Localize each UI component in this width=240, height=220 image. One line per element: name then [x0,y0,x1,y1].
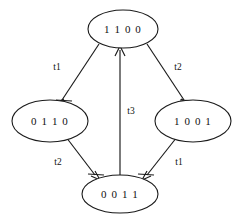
arrowhead-barb-bottom-from-right [138,174,154,175]
graph-canvas: t1 t2 t2 t1 t3 [0,0,240,220]
node-left-label: 0 1 1 0 [31,115,69,127]
arrowhead-barb-bottom-from-left [88,174,104,175]
edge-left-to-bottom: t2 [54,137,104,180]
node-left[interactable]: 0 1 1 0 [12,100,88,142]
node-top-label: 1 1 0 0 [104,23,142,35]
edge-line-top-to-left [62,44,99,100]
edge-top-to-left: t1 [53,44,99,108]
node-top[interactable]: 1 1 0 0 [88,10,158,48]
node-bottom[interactable]: 0 0 1 1 [82,175,158,213]
edge-label-left-to-bottom: t2 [54,157,62,167]
edge-line-right-to-bottom [147,137,177,175]
state-transition-diagram: t1 t2 t2 t1 t3 [0,0,240,220]
edge-label-bottom-to-top: t3 [127,106,135,116]
node-right-label: 1 0 0 1 [174,115,212,127]
edge-right-to-bottom: t1 [138,137,183,180]
edge-line-left-to-bottom [66,137,95,175]
edge-bottom-to-top: t3 [115,46,135,176]
node-bottom-label: 0 0 1 1 [101,188,139,200]
edge-label-top-to-right: t2 [174,62,182,72]
node-right[interactable]: 1 0 0 1 [155,100,231,142]
edge-label-right-to-bottom: t1 [175,157,183,167]
edge-label-top-to-left: t1 [53,62,61,72]
edge-top-to-right: t2 [147,44,196,108]
